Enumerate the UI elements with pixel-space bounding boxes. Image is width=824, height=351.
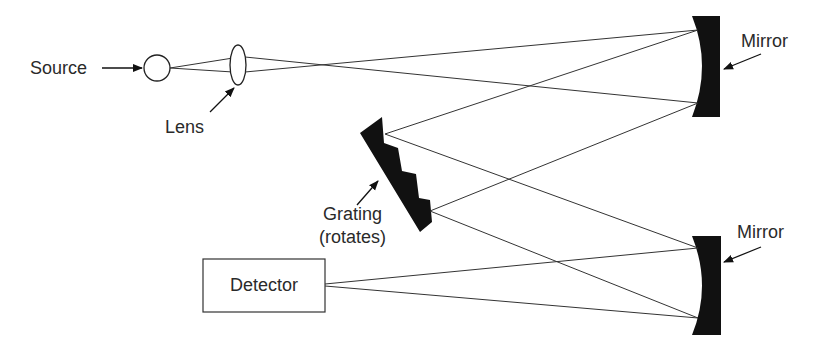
bottom-mirror-icon	[692, 236, 721, 335]
ray	[245, 57, 698, 103]
source-label: Source	[30, 58, 87, 78]
lens-arrow	[210, 88, 234, 112]
lens-icon	[230, 45, 246, 85]
top-mirror-arrow	[724, 54, 761, 69]
grating-arrow	[357, 181, 378, 205]
bottom-mirror-label: Mirror	[737, 222, 784, 242]
ray	[325, 286, 698, 318]
ray	[385, 30, 698, 134]
grating-label-line1: Grating	[323, 204, 382, 224]
ray	[385, 134, 698, 248]
grating-label-line2: (rotates)	[319, 227, 386, 247]
bottom-mirror-arrow	[724, 247, 761, 262]
optical-diagram: Source Lens Mirror Grating (rotates) Mir…	[0, 0, 824, 351]
lens-label: Lens	[165, 117, 204, 137]
top-mirror-icon	[692, 16, 720, 117]
detector-label: Detector	[230, 275, 298, 295]
ray	[325, 248, 698, 284]
ray	[170, 58, 233, 68]
ray	[170, 68, 233, 72]
source-icon	[144, 55, 170, 81]
ray	[245, 30, 698, 72]
ray	[430, 103, 698, 211]
ray	[430, 211, 698, 318]
top-mirror-label: Mirror	[741, 31, 788, 51]
